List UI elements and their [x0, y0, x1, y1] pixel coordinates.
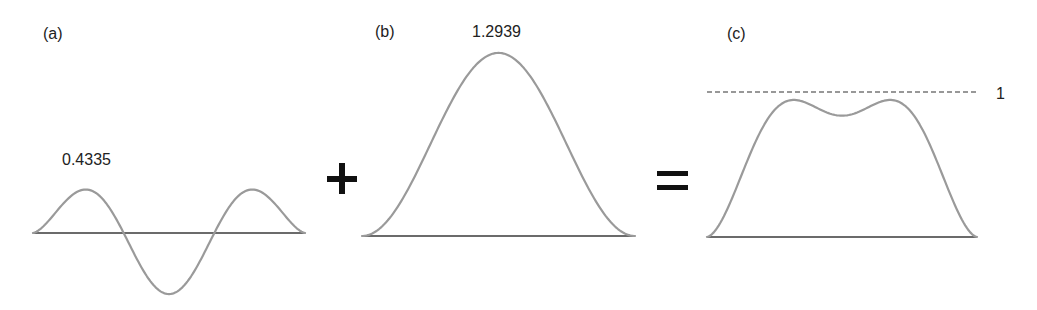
panel-a-curve: [33, 190, 305, 295]
equals-icon: [657, 171, 688, 190]
panel-b-label: (b): [375, 23, 395, 40]
superposition-diagram: (a) 0.4335 (b) 1.2939 (c) 1: [0, 0, 1037, 310]
panel-a-label: (a): [43, 25, 63, 42]
panel-c: (c) 1: [707, 25, 1005, 237]
panel-c-label: (c): [727, 25, 746, 42]
panel-b-peak-value: 1.2939: [472, 23, 521, 40]
panel-b-curve: [362, 53, 635, 236]
plus-icon: [327, 163, 357, 194]
panel-a: (a) 0.4335: [33, 25, 305, 294]
reference-value-label: 1: [996, 85, 1005, 102]
panel-c-curve: [707, 100, 977, 237]
panel-b: (b) 1.2939: [362, 23, 635, 236]
panel-a-peak-value: 0.4335: [62, 151, 111, 168]
